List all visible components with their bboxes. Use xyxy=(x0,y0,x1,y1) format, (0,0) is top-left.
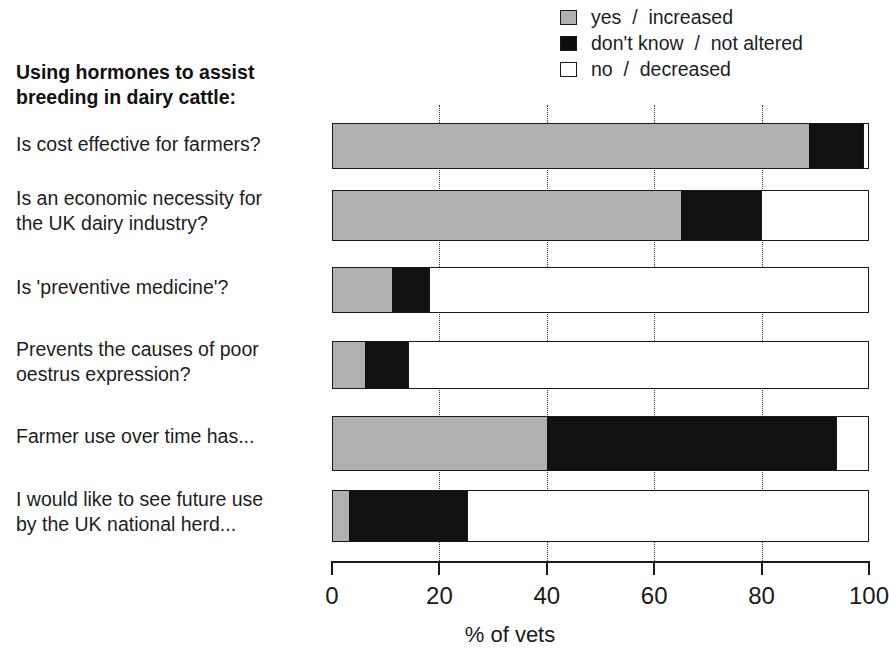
category-label-4-line-1: Prevents the causes of poor xyxy=(16,337,334,362)
category-label-4-line-2: oestrus expression? xyxy=(16,362,334,387)
category-label-3-line-1: Is 'preventive medicine'? xyxy=(16,275,334,300)
chart-heading: Using hormones to assist breeding in dai… xyxy=(16,60,336,110)
category-label-2-line-2: the UK dairy industry? xyxy=(16,211,334,236)
category-label-5-line-1: Farmer use over time has... xyxy=(16,424,334,449)
bar-segment-dk-2 xyxy=(681,191,761,240)
category-label-3: Is 'preventive medicine'? xyxy=(16,275,334,300)
x-tick-80 xyxy=(761,561,763,575)
legend-label-dont-know: don't know / not altered xyxy=(591,32,803,54)
category-label-2: Is an economic necessity for the UK dair… xyxy=(16,186,334,236)
x-tick-0 xyxy=(331,561,333,575)
category-label-2-line-1: Is an economic necessity for xyxy=(16,186,334,211)
plot-area xyxy=(332,105,869,561)
bar-row-6 xyxy=(332,490,869,542)
bar-segment-no-2 xyxy=(761,191,868,240)
x-axis-title: % of vets xyxy=(0,622,889,648)
bar-segment-dk-5 xyxy=(547,417,836,470)
bar-segment-dk-3 xyxy=(392,268,429,312)
x-tick-label-80: 80 xyxy=(748,582,775,610)
legend-label-yes: yes / increased xyxy=(591,6,733,28)
bar-segment-yes-3 xyxy=(333,268,392,312)
chart-heading-line-1: Using hormones to assist xyxy=(16,60,336,85)
chart-legend: yes / increased don't know / not altered… xyxy=(560,4,889,82)
legend-item-no: no / decreased xyxy=(560,56,889,82)
bar-row-4 xyxy=(332,341,869,389)
x-axis xyxy=(332,561,869,563)
bar-segment-yes-5 xyxy=(333,417,547,470)
bar-segment-no-1 xyxy=(863,124,868,168)
x-tick-40 xyxy=(546,561,548,575)
bar-segment-dk-6 xyxy=(349,491,467,541)
bar-segment-no-5 xyxy=(836,417,868,470)
legend-swatch-gray-icon xyxy=(560,10,577,25)
legend-swatch-white-icon xyxy=(560,62,577,77)
bar-row-3 xyxy=(332,267,869,313)
chart-heading-line-2: breeding in dairy cattle: xyxy=(16,85,336,110)
category-label-5: Farmer use over time has... xyxy=(16,424,334,449)
bar-row-1 xyxy=(332,123,869,169)
legend-swatch-black-icon xyxy=(560,36,577,51)
bar-row-5 xyxy=(332,416,869,471)
legend-label-no: no / decreased xyxy=(591,58,731,80)
x-tick-20 xyxy=(438,561,440,575)
x-tick-100 xyxy=(868,561,870,575)
bar-segment-yes-4 xyxy=(333,342,365,388)
bar-segment-yes-2 xyxy=(333,191,681,240)
bar-segment-no-3 xyxy=(429,268,868,312)
legend-item-yes: yes / increased xyxy=(560,4,889,30)
bar-segment-yes-1 xyxy=(333,124,809,168)
category-label-1-line-1: Is cost effective for farmers? xyxy=(16,132,334,157)
category-label-4: Prevents the causes of poor oestrus expr… xyxy=(16,337,334,387)
bar-row-2 xyxy=(332,190,869,241)
bar-segment-dk-1 xyxy=(809,124,863,168)
x-tick-label-0: 0 xyxy=(325,582,338,610)
x-tick-label-40: 40 xyxy=(533,582,560,610)
x-tick-label-60: 60 xyxy=(641,582,668,610)
x-tick-60 xyxy=(653,561,655,575)
legend-item-dont-know: don't know / not altered xyxy=(560,30,889,56)
category-label-1: Is cost effective for farmers? xyxy=(16,132,334,157)
bar-segment-dk-4 xyxy=(365,342,408,388)
bar-segment-no-6 xyxy=(467,491,868,541)
category-label-6: I would like to see future use by the UK… xyxy=(16,487,334,537)
bar-segment-no-4 xyxy=(408,342,868,388)
x-tick-label-100: 100 xyxy=(849,582,889,610)
category-label-6-line-1: I would like to see future use xyxy=(16,487,334,512)
category-label-6-line-2: by the UK national herd... xyxy=(16,512,334,537)
bar-segment-yes-6 xyxy=(333,491,349,541)
x-tick-label-20: 20 xyxy=(426,582,453,610)
